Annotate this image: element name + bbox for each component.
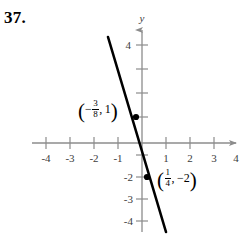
minus-sign: − — [85, 102, 92, 116]
close-paren: ) — [190, 168, 197, 192]
fraction-three-eighths: 38 — [92, 99, 99, 119]
x-tick-label--4: -4 — [41, 152, 51, 164]
y-tick-label-4: 4 — [126, 39, 132, 51]
open-paren: ( — [157, 168, 164, 192]
fraction-denominator: 4 — [165, 178, 172, 189]
point-label-2: (14, −2) — [157, 168, 197, 191]
comma: , — [172, 171, 175, 185]
exercise-figure: 37. — [0, 0, 247, 248]
point-label-1: (−38, 1) — [78, 99, 118, 122]
close-paren: ) — [111, 99, 118, 123]
fraction-denominator: 8 — [92, 109, 99, 120]
x-tick-label--1: -1 — [113, 152, 122, 164]
coordinate-plane-graph: y -4 -3 -2 -1 1 2 3 4 4 -2 -3 -4 — [0, 0, 247, 248]
x-tick-label-2: 2 — [187, 152, 193, 164]
x-tick-label--2: -2 — [89, 152, 98, 164]
y-tick-label--2: -2 — [124, 171, 133, 183]
data-point-1 — [133, 114, 139, 120]
x-tick-label-1: 1 — [163, 152, 169, 164]
fraction-numerator: 3 — [92, 99, 99, 109]
fraction-numerator: 1 — [165, 168, 172, 178]
x-tick-label-3: 3 — [211, 152, 217, 164]
open-paren: ( — [78, 99, 85, 123]
y-tick-label--4: -4 — [124, 215, 134, 227]
y-tick-label--3: -3 — [124, 193, 134, 205]
y-value: −2 — [177, 171, 190, 185]
x-tick-label--3: -3 — [65, 152, 75, 164]
y-axis-label: y — [139, 12, 145, 24]
plotted-line — [108, 37, 166, 232]
fraction-one-fourth: 14 — [165, 168, 172, 188]
comma: , — [99, 102, 102, 116]
x-tick-label-4: 4 — [233, 152, 239, 164]
data-point-2 — [144, 174, 150, 180]
